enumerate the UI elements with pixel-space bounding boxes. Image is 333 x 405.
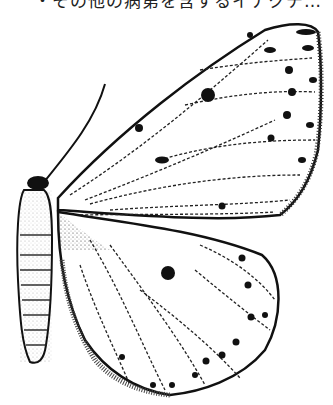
body [17, 176, 52, 363]
discal-spot [201, 88, 215, 102]
forewing [58, 24, 321, 218]
hindwing [58, 212, 279, 395]
head [27, 176, 49, 190]
hindwing-discal-spot [161, 266, 175, 280]
moth-illustration [0, 0, 333, 405]
